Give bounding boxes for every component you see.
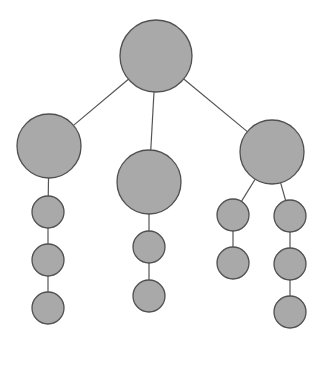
node-left-2 [32, 244, 64, 276]
node-left-1 [32, 196, 64, 228]
edge-root-to-middle [151, 92, 154, 150]
node-left-3 [32, 292, 64, 324]
edge-root-to-left [73, 79, 128, 125]
tree-diagram [0, 0, 326, 366]
node-right [240, 120, 304, 184]
edge-right-to-right-a-1 [241, 179, 255, 201]
node-right-a-1 [217, 199, 249, 231]
node-middle [117, 150, 181, 214]
edge-right-to-right-b-1 [281, 183, 286, 201]
node-right-b-3 [274, 296, 306, 328]
node-middle-1 [133, 231, 165, 263]
node-right-b-2 [274, 248, 306, 280]
node-middle-2 [133, 280, 165, 312]
node-root [120, 20, 192, 92]
tree-nodes [17, 20, 306, 328]
node-left [17, 114, 81, 178]
node-right-b-1 [274, 200, 306, 232]
node-right-a-2 [217, 247, 249, 279]
edge-root-to-right [184, 79, 248, 132]
